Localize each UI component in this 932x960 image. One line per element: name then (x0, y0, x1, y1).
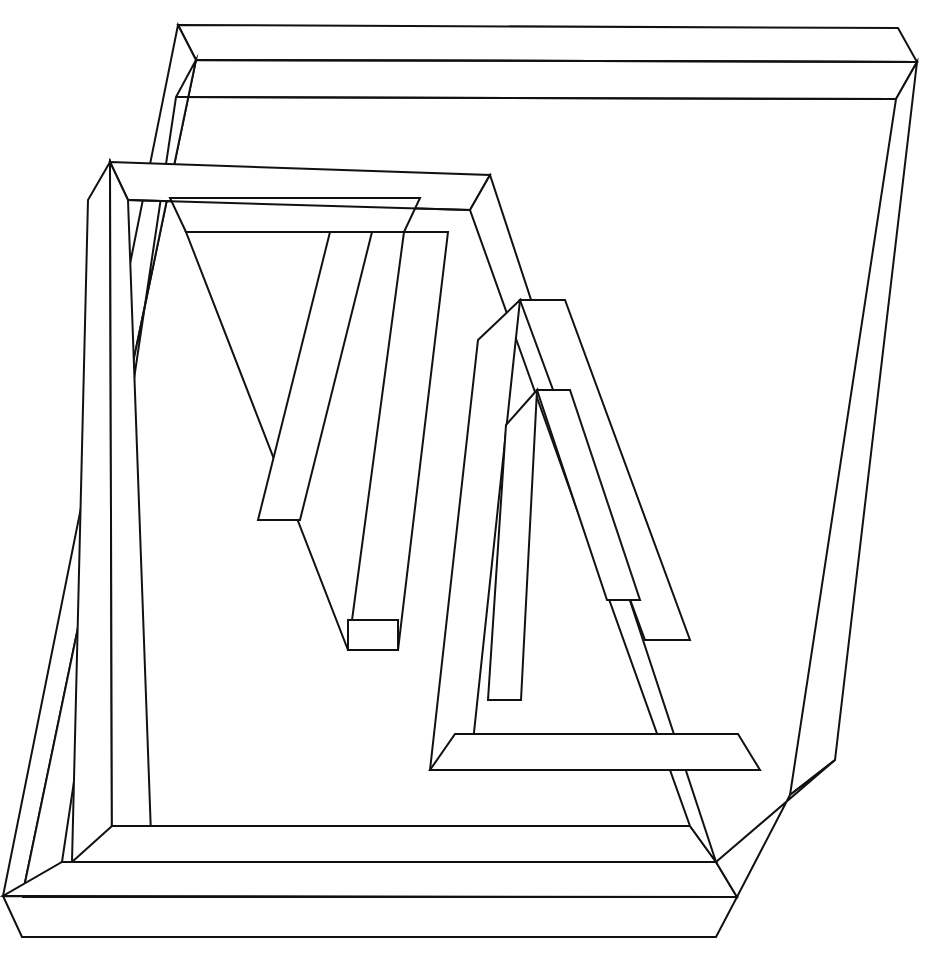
weave-inner-v-bottom (348, 620, 398, 650)
medium-bottom-beam (72, 826, 716, 862)
impossible-triangles-illustration (0, 0, 932, 960)
large-bottom-beam-front-face (3, 896, 737, 937)
large-top-beam-front-face (176, 60, 917, 99)
artboard (0, 0, 932, 960)
weave-inner-right-bottom-beam (430, 734, 760, 770)
large-bottom-beam-upper-face (3, 862, 737, 897)
large-top-beam-upper-face (178, 25, 917, 62)
